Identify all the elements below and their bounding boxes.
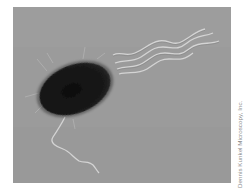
bacterium-illustration (13, 7, 231, 183)
micrograph-photo (13, 7, 231, 183)
photo-credit: Dennis Kunkel Microscopy, Inc. (236, 101, 243, 188)
